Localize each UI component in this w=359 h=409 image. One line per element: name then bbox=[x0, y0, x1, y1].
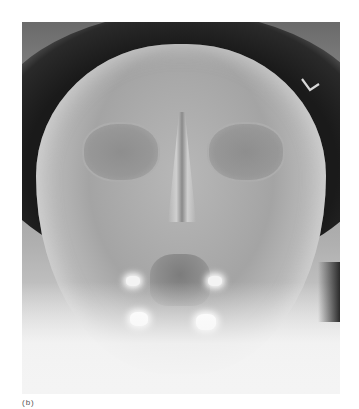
figure-caption: (b) bbox=[22, 398, 35, 407]
mandible-region bbox=[22, 282, 340, 394]
soft-tissue-shadow bbox=[318, 262, 340, 322]
right-orbit bbox=[207, 122, 285, 182]
side-marker-l-icon bbox=[300, 78, 320, 92]
left-orbit bbox=[82, 122, 160, 182]
radiograph-image bbox=[22, 22, 340, 394]
